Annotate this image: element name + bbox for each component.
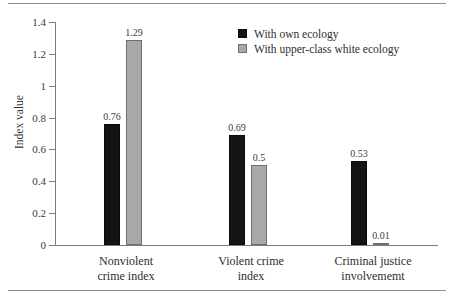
bar: [126, 40, 142, 245]
y-axis-tick: [49, 213, 55, 214]
y-axis-tick-label: 0: [0, 240, 46, 251]
category-label-line: involvememt: [307, 269, 439, 284]
y-axis-tick-label: 1.2: [0, 49, 46, 60]
y-axis-tick-label: 0.8: [0, 113, 46, 124]
y-axis-line: [55, 22, 56, 246]
y-axis-tick-label: 1.4: [0, 17, 46, 28]
bar-value-label: 0.53: [341, 149, 377, 159]
bar-chart: Index value 00.20.40.60.811.21.4 0.760.6…: [0, 0, 454, 301]
legend-swatch-icon: [238, 29, 247, 38]
y-axis-tick: [49, 181, 55, 182]
bar-value-label: 1.29: [116, 28, 152, 38]
y-axis-tick: [49, 22, 55, 23]
category-label-line: Criminal justice: [307, 254, 439, 269]
category-label-line: Nonviolent: [60, 254, 192, 269]
bar-value-label: 0.01: [363, 231, 399, 241]
bar: [104, 124, 120, 245]
bar-value-label: 0.5: [241, 153, 277, 163]
y-axis-tick-label: 0.6: [0, 144, 46, 155]
y-axis-tick: [49, 86, 55, 87]
bar: [229, 135, 245, 245]
legend-label: With own ecology: [254, 28, 339, 40]
y-axis-tick-label: 0.2: [0, 208, 46, 219]
bar-value-label: 0.76: [94, 112, 130, 122]
x-axis-category-label: Criminal justiceinvolvememt: [307, 254, 439, 283]
x-axis-line: [55, 245, 438, 246]
x-axis-category-label: Violent crimeindex: [185, 254, 317, 283]
legend-swatch-icon: [238, 44, 247, 53]
legend-item: With own ecology: [238, 27, 399, 40]
bar: [251, 165, 267, 245]
y-axis-tick: [49, 54, 55, 55]
bar: [373, 243, 389, 245]
category-label-line: Violent crime: [185, 254, 317, 269]
y-axis-tick: [49, 245, 55, 246]
y-axis-tick: [49, 149, 55, 150]
legend-item: With upper-class white ecology: [238, 42, 399, 55]
category-label-line: index: [185, 269, 317, 284]
bar-value-label: 0.69: [219, 123, 255, 133]
x-axis-category-label: Nonviolentcrime index: [60, 254, 192, 283]
category-label-line: crime index: [60, 269, 192, 284]
chart-legend: With own ecologyWith upper-class white e…: [238, 27, 399, 57]
legend-label: With upper-class white ecology: [254, 43, 399, 55]
y-axis-tick: [49, 118, 55, 119]
y-axis-tick-label: 0.4: [0, 176, 46, 187]
y-axis-tick-label: 1: [0, 81, 46, 92]
